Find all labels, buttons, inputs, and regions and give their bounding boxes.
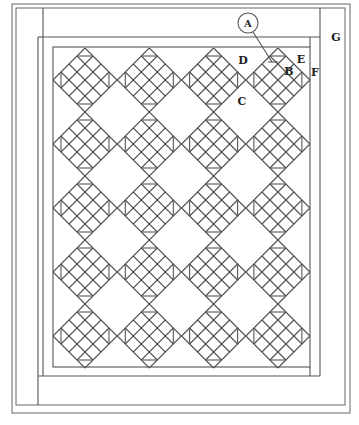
label-g: G (331, 31, 340, 44)
quilt-block (246, 176, 310, 240)
quilt-blocks (53, 48, 310, 368)
quilt-block (246, 304, 310, 368)
quilt-block (246, 240, 310, 304)
quilt-block (53, 112, 117, 176)
quilt-diagram: A D E B F C G (0, 0, 359, 425)
label-b: B (284, 65, 293, 78)
label-e: E (297, 53, 305, 66)
label-a: A (243, 18, 252, 29)
quilt-block (182, 48, 246, 112)
quilt-block (117, 48, 181, 112)
quilt-block (53, 48, 117, 112)
label-f: F (311, 66, 319, 79)
quilt-block (53, 176, 117, 240)
quilt-block (53, 240, 117, 304)
quilt-block (117, 304, 181, 368)
quilt-block (182, 304, 246, 368)
label-c: C (238, 95, 247, 108)
quilt-block (182, 112, 246, 176)
quilt-block (117, 112, 181, 176)
quilt-block (117, 176, 181, 240)
quilt-block (182, 240, 246, 304)
outer-border-g (38, 8, 320, 405)
quilt-block (53, 304, 117, 368)
quilt-block (117, 240, 181, 304)
quilt-block (246, 112, 310, 176)
quilt-block (182, 176, 246, 240)
label-d: D (238, 54, 248, 67)
